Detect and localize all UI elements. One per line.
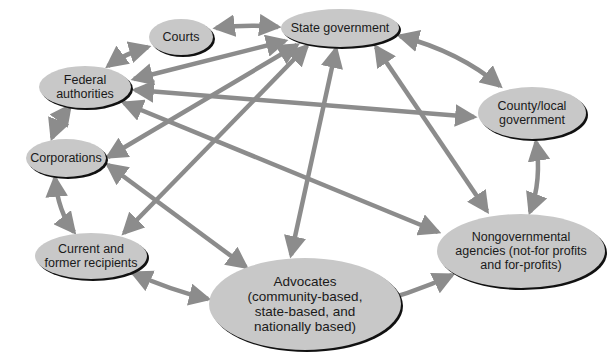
node-nongovernmental-agencies bbox=[437, 214, 607, 290]
arrow-state-ngo bbox=[376, 47, 487, 211]
node-courts bbox=[149, 19, 215, 57]
arrow-state-advocates bbox=[291, 49, 336, 255]
node-county-local-government bbox=[478, 87, 588, 141]
node-current-former-recipients bbox=[35, 233, 149, 281]
arrow-federal-corporations bbox=[52, 106, 70, 138]
node-federal-authorities bbox=[39, 66, 133, 110]
arrow-courts-state bbox=[216, 26, 278, 28]
node-advocates bbox=[209, 258, 403, 352]
arrow-courts-federal bbox=[108, 47, 148, 66]
node-state-government bbox=[281, 9, 401, 49]
arrow-recipients-advocates bbox=[133, 273, 208, 299]
stakeholder-network-diagram bbox=[0, 0, 608, 354]
node-corporations bbox=[26, 139, 108, 179]
arrow-state-county bbox=[400, 36, 500, 86]
arrow-corporations-recipients bbox=[55, 178, 74, 232]
arrow-county-ngo bbox=[530, 142, 538, 212]
